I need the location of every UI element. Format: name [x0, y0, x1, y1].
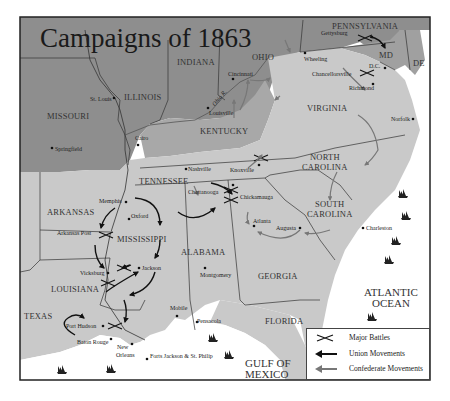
city-springfield: Springfield — [55, 146, 82, 152]
label-tennessee: TENNESSEE — [139, 177, 189, 186]
city-arkansas-post: Arkansas Post — [57, 230, 91, 236]
label-mississippi: MISSISSIPPI — [117, 235, 166, 244]
label-virginia: VIRGINIA — [307, 104, 347, 113]
city-norfolk: Norfolk — [391, 116, 410, 122]
map-title: Campaigns of 1863 — [40, 25, 251, 52]
label-arkansas: ARKANSAS — [47, 208, 94, 217]
city-cairo: Cairo — [135, 135, 148, 141]
label-kentucky: KENTUCKY — [200, 127, 248, 136]
label-south-carolina-1: SOUTH — [315, 200, 344, 209]
map-legend: Major Battles Union Movements Confederat… — [306, 328, 430, 380]
city-montgomery: Montgomery — [200, 272, 231, 278]
city-charleston: Charleston — [366, 225, 392, 231]
city-mobile: Mobile — [170, 305, 187, 311]
label-alabama: ALABAMA — [181, 248, 225, 257]
label-louisiana: LOUISIANA — [51, 285, 99, 294]
city-chattanooga: Chattanooga — [188, 189, 218, 195]
label-atlantic-2: OCEAN — [372, 298, 410, 310]
label-gulf-2: MEXICO — [245, 369, 288, 381]
city-louisville: Louisville — [209, 110, 233, 116]
legend-item-confederate: Confederate Movements — [307, 362, 429, 376]
city-new-orleans-2: Orleans — [116, 352, 135, 358]
city-memphis: Memphis — [99, 198, 122, 204]
legend-label: Union Movements — [349, 349, 405, 358]
label-north-carolina-1: NORTH — [310, 153, 340, 162]
label-georgia: GEORGIA — [258, 272, 298, 281]
city-gettysburg: Gettysburg — [321, 30, 348, 36]
city-atlanta: Atlanta — [253, 218, 271, 224]
city-augusta: Augusta — [276, 225, 296, 231]
legend-label: Major Battles — [349, 333, 390, 342]
union-arrow-icon — [315, 349, 337, 359]
city-oxford: Oxford — [131, 213, 148, 219]
city-st-louis: St. Louis — [90, 96, 112, 102]
city-new-orleans-1: New — [117, 344, 128, 350]
city-jackson: Jackson — [142, 265, 161, 271]
city-pensacola: Pensacola — [197, 318, 221, 324]
city-chickamauga: Chickamauga — [240, 194, 273, 200]
label-maryland: MD — [379, 51, 393, 60]
city-chancellorsville: Chancellorsville — [312, 71, 351, 77]
city-baton-rouge: Baton Rouge — [77, 339, 109, 345]
label-florida: FLORIDA — [265, 317, 303, 326]
city-cincinnati: Cincinnati — [228, 71, 253, 77]
label-north-carolina-2: CAROLINA — [302, 163, 348, 172]
label-ohio: OHIO — [252, 53, 274, 62]
crossed-swords-icon — [315, 333, 335, 343]
label-texas: TEXAS — [24, 312, 52, 321]
city-port-hudson: Port Hudson — [66, 323, 96, 329]
city-nashville: Nashville — [188, 166, 211, 172]
city-dc: D.C. — [369, 63, 380, 69]
confederate-arrow-icon — [315, 364, 337, 374]
legend-item-union: Union Movements — [307, 347, 429, 361]
city-knoxville: Knoxville — [230, 167, 254, 173]
label-indiana: INDIANA — [177, 58, 215, 67]
label-south-carolina-2: CAROLINA — [307, 210, 353, 219]
label-illinois: ILLINOIS — [124, 93, 161, 102]
city-vicksburg: Vicksburg — [80, 270, 105, 276]
label-missouri: MISSOURI — [47, 112, 89, 121]
city-wheeling: Wheeling — [304, 56, 327, 62]
city-richmond: Richmond — [349, 85, 374, 91]
legend-item-battles: Major Battles — [307, 331, 429, 345]
city-forts-jackson-st-philip: Forts Jackson & St. Philip — [150, 353, 213, 359]
label-delaware: DE — [413, 59, 425, 68]
legend-label: Confederate Movements — [349, 364, 423, 373]
